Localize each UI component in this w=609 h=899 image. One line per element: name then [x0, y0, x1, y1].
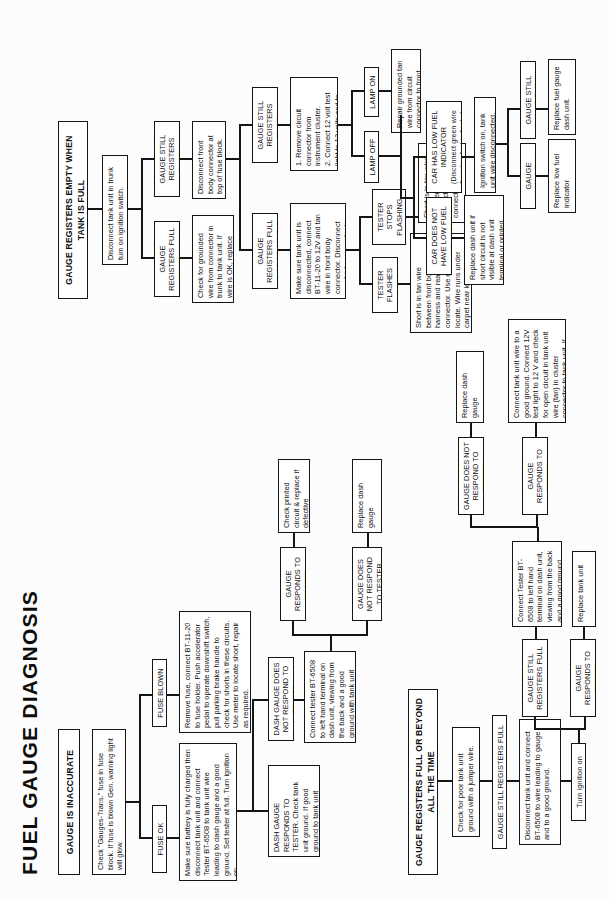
action-replace-low-fuel-indicator: Replace low fuel indicator [548, 139, 576, 213]
heading-line-1: GAUGE REGISTERS EMPTY WHEN TANK IS FULL [64, 135, 86, 284]
connector [278, 124, 290, 126]
connector [330, 635, 332, 651]
connector [507, 108, 520, 110]
connector [128, 208, 142, 210]
step-remove-circuit-connector: 1. Remove circuit connector from instrum… [290, 77, 338, 171]
connector [359, 283, 372, 285]
connector [534, 728, 586, 730]
result-gauge-responds-to-tester-inaccurate: GAUGE RESPONDS TO TESTER [280, 547, 306, 621]
connector [379, 90, 391, 92]
branch-fuse-blown: FUSE BLOWN [152, 659, 167, 727]
connector [400, 197, 414, 199]
connector [413, 156, 426, 158]
connector [507, 780, 519, 782]
result-gauge-responds-full: GAUGE RESPONDS TO TESTER [522, 437, 548, 515]
heading-line-2: (Caused by Short Circuit in Tank Unit Ci… [87, 127, 88, 293]
action-check-open-circuit-tank-wire: Connect tank unit wire to a good ground.… [508, 319, 566, 423]
step-fuse-blown-remove-fuse: Remove fuse, connect BT-11-20 to fuse ho… [179, 611, 251, 733]
step-make-sure-tank-unit-disconnected: Make sure tank unit is disconnected, con… [290, 203, 346, 299]
result-gauge-still-shows-empty: GAUGE STILL SHOWS EMPTY [520, 61, 536, 139]
step-check-gauges-trans-fuse: Check "Gauges-Trans." fuse in fuse block… [92, 729, 126, 875]
page-title: FUEL GAUGE DIAGNOSIS [18, 590, 42, 875]
connector [252, 700, 254, 812]
result-dash-gauge-not-respond: DASH GAUGE DOES NOT RESPOND TO TESTER [268, 657, 294, 741]
branch-label: CAR HAS LOW FUEL INDICATOR [430, 110, 448, 183]
heading-gauge-full-all-time: GAUGE REGISTERS FULL OR BEYOND ALL THE T… [408, 689, 438, 875]
connector [398, 283, 410, 285]
step-disconnect-front-body-connector: Disconnect front body connector at top o… [192, 121, 226, 199]
connector [462, 156, 474, 158]
connector [452, 237, 464, 239]
step-connect-tester-6508-dash-full: Connect Tester BT-6508 to left hand term… [512, 541, 562, 627]
connector [239, 125, 241, 251]
connector [139, 695, 141, 839]
step-check-poor-tank-ground: Check for poor tank unit ground with a j… [452, 727, 480, 837]
result-gauge-does-not-respond-full: GAUGE DOES NOT RESPOND TO TESTER [458, 437, 484, 515]
connector [346, 249, 360, 251]
connector [367, 533, 369, 547]
action-replace-dash-unit-short: Replace dash unit if short circuit is no… [464, 195, 504, 285]
page-canvas: FUEL GAUGE DIAGNOSIS GAUGE IS INACCURATE… [0, 0, 609, 899]
connector [252, 699, 268, 701]
connector [406, 216, 418, 218]
result-dash-gauge-responds: DASH GAUGE RESPONDS TO TESTER. Check tan… [268, 765, 320, 857]
result-gauge-shows-full: GAUGE SHOWS FULL [520, 143, 536, 209]
step-ignition-switch-on: Ignition switch on, tank unit wire disco… [474, 97, 496, 193]
branch-car-no-low-fuel-indicator: CAR DOES NOT HAVE LOW FUEL INDICATOR [426, 197, 452, 275]
connector [535, 627, 537, 639]
connector [139, 694, 152, 696]
branch-sublabel: (Disconnect green wire from low fuel ind… [449, 106, 462, 188]
connector [536, 175, 548, 177]
result-gauge-not-respond-inaccurate: GAUGE DOES NOT RESPOND TO TESTER [352, 547, 382, 621]
action-repair-grounded-tan-wire: Repair grounded tan wire from circuit co… [391, 49, 421, 133]
branch-gauge-full-or-beyond-2: GAUGE REGISTERS FULL OR BEYOND [252, 213, 278, 289]
connector [536, 514, 538, 528]
connector [126, 801, 140, 803]
branch-gauge-still-empty-2: GAUGE STILL REGISTERS EMPTY [252, 87, 278, 163]
connector [292, 620, 294, 636]
connector [537, 527, 539, 541]
connector [584, 716, 586, 730]
connector [338, 124, 352, 126]
connector [561, 780, 571, 782]
action-check-printed-circuit: Check printed circuit & replace if defec… [278, 459, 310, 533]
connector [536, 108, 548, 110]
connector [470, 423, 472, 437]
connector [294, 699, 304, 701]
step-fuse-ok-battery-check: Make sure battery is fully charged then … [179, 743, 237, 881]
connector [239, 249, 252, 251]
connector [470, 526, 538, 528]
branch-gauge-still-empty-1: GAUGE STILL REGISTERS EMPTY [154, 121, 180, 197]
connector [351, 155, 364, 157]
connector [480, 780, 492, 782]
branch-tester-flashes: TESTER FLASHES [372, 257, 398, 313]
connector [359, 216, 372, 218]
branch-car-has-low-fuel-indicator: CAR HAS LOW FUEL INDICATOR(Disconnect gr… [426, 101, 462, 193]
connector [167, 837, 179, 839]
connector [366, 620, 368, 636]
heading-line-2: (Caused by Open Circuit in Tank Unit Cir… [437, 695, 438, 869]
heading-gauge-inaccurate: GAUGE IS INACCURATE [58, 729, 80, 875]
connector [413, 237, 426, 239]
connector [534, 716, 536, 730]
connector [180, 257, 192, 259]
connector [141, 257, 154, 259]
connector [413, 157, 415, 239]
connector [351, 91, 353, 157]
connector [470, 514, 472, 528]
connector [292, 634, 368, 636]
connector [359, 217, 361, 285]
connector [438, 780, 452, 782]
connector [167, 694, 179, 696]
heading-gauge-empty-when-full: GAUGE REGISTERS EMPTY WHEN TANK IS FULL … [58, 121, 88, 299]
action-replace-dash-gauge-full: Replace dash gauge [456, 351, 484, 423]
connector [180, 158, 192, 160]
connector [351, 90, 364, 92]
connector [88, 208, 102, 210]
step-check-grounded-wire-trunk: Check for grounded wire from connector i… [192, 215, 234, 303]
connector [141, 159, 143, 259]
step-disconnect-tank-unit-connect-6508: Disconnect tank unit and connect BT-6508… [519, 719, 561, 845]
branch-fuse-ok: FUSE OK [152, 805, 167, 873]
action-replace-dash-gauge-inaccurate: Replace dash gauge [352, 459, 382, 533]
result-gauge-still-registers-full-2: GAUGE STILL REGISTERS FULL [522, 639, 548, 717]
